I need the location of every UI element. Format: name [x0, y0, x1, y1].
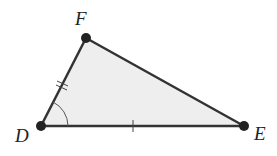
label-d: D — [14, 125, 29, 146]
triangle-diagram: F D E — [0, 0, 277, 156]
label-e: E — [253, 123, 266, 144]
vertex-e — [239, 121, 249, 131]
vertex-f — [81, 33, 91, 43]
vertex-d — [36, 121, 46, 131]
label-f: F — [74, 8, 87, 29]
triangle-def — [41, 38, 244, 126]
